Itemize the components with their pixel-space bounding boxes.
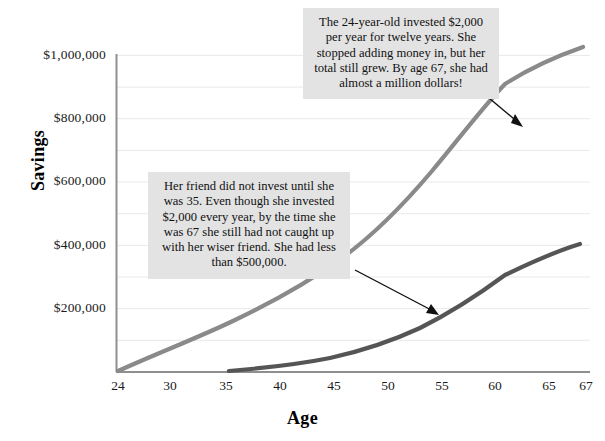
xtick-label-35: 35: [212, 378, 240, 394]
xtick-label-55: 55: [428, 378, 456, 394]
y-axis-title: Savings: [28, 101, 49, 221]
ytick-label-800000: $800,000: [10, 110, 106, 126]
xtick-label-65: 65: [535, 378, 563, 394]
xtick-label-30: 30: [156, 378, 184, 394]
ytick-label-1000000: $1,000,000: [10, 47, 106, 63]
ytick-label-400000: $400,000: [10, 237, 106, 253]
xtick-label-67: 67: [572, 378, 600, 394]
ytick-label-200000: $200,000: [10, 300, 106, 316]
xtick-label-60: 60: [481, 378, 509, 394]
xtick-label-40: 40: [266, 378, 294, 394]
savings-growth-chart: $1,000,000 $800,000 $600,000 $400,000 $2…: [0, 0, 605, 441]
ytick-label-600000: $600,000: [10, 173, 106, 189]
annotation-late-investor: Her friend did not invest until she was …: [148, 172, 350, 279]
xtick-label-45: 45: [320, 378, 348, 394]
x-axis-title: Age: [0, 408, 605, 429]
xtick-label-50: 50: [374, 378, 402, 394]
xtick-label-24: 24: [104, 378, 132, 394]
annotation-early-investor: The 24-year-old invested $2,000 per year…: [303, 8, 499, 99]
